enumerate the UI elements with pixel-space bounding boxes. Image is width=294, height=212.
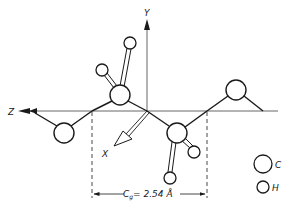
carbon-atom: [54, 123, 74, 143]
legend-carbon-label: C: [275, 160, 282, 170]
carbon-atom: [110, 85, 130, 105]
hydrogen-atom: [124, 37, 136, 49]
y-axis-label: Y: [144, 8, 151, 18]
x-axis: [114, 111, 149, 146]
hydrogen-atom: [188, 146, 200, 158]
carbon-atom: [167, 123, 187, 143]
x-axis-arrow-icon: [114, 131, 132, 146]
dimension-value: = 2.54 Å: [133, 188, 172, 199]
y-axis: [144, 19, 150, 111]
legend-hydrogen-label: H: [272, 183, 279, 193]
carbon-backbone: [35, 96, 263, 127]
y-axis-arrow-icon: [144, 19, 150, 30]
dimension-label: Cg= 2.54 Å: [123, 188, 173, 201]
carbon-atom: [226, 80, 246, 100]
legend-carbon-icon: [254, 155, 272, 173]
legend-hydrogen-icon: [257, 181, 269, 193]
z-axis-arrow-icon: [18, 108, 30, 114]
hydrogen-atom: [96, 64, 108, 76]
legend: C H: [254, 155, 282, 193]
x-axis-label: X: [101, 149, 109, 159]
molecule-diagram: Z Y X: [0, 0, 294, 212]
ch-bonds: [104, 48, 193, 172]
z-axis-label: Z: [7, 107, 15, 117]
hydrogen-atom: [164, 172, 176, 184]
